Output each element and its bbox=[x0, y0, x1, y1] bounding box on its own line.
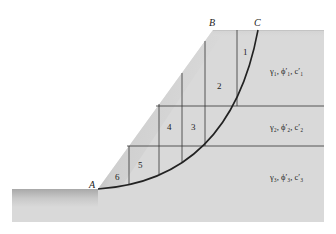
layer-1-properties: γ₁, ϕ′₁, c′₁ bbox=[269, 66, 303, 76]
slice-number-2: 2 bbox=[217, 81, 222, 91]
slope-stability-diagram: A B C 1 2 3 4 5 6 γ₁, ϕ′₁, c′₁ γ₂, ϕ′₂, … bbox=[0, 0, 336, 234]
slice-number-3: 3 bbox=[191, 122, 196, 132]
point-label-b: B bbox=[209, 17, 215, 28]
slice-number-6: 6 bbox=[115, 172, 120, 182]
slice-number-1: 1 bbox=[243, 47, 248, 57]
point-label-c: C bbox=[254, 17, 261, 28]
point-label-a: A bbox=[88, 179, 96, 190]
layer-2-properties: γ₂, ϕ′₂, c′₂ bbox=[269, 122, 303, 132]
layer-3-properties: γ₃, ϕ′₃, c′₃ bbox=[269, 172, 303, 182]
slice-number-5: 5 bbox=[138, 160, 143, 170]
slice-number-4: 4 bbox=[167, 122, 172, 132]
